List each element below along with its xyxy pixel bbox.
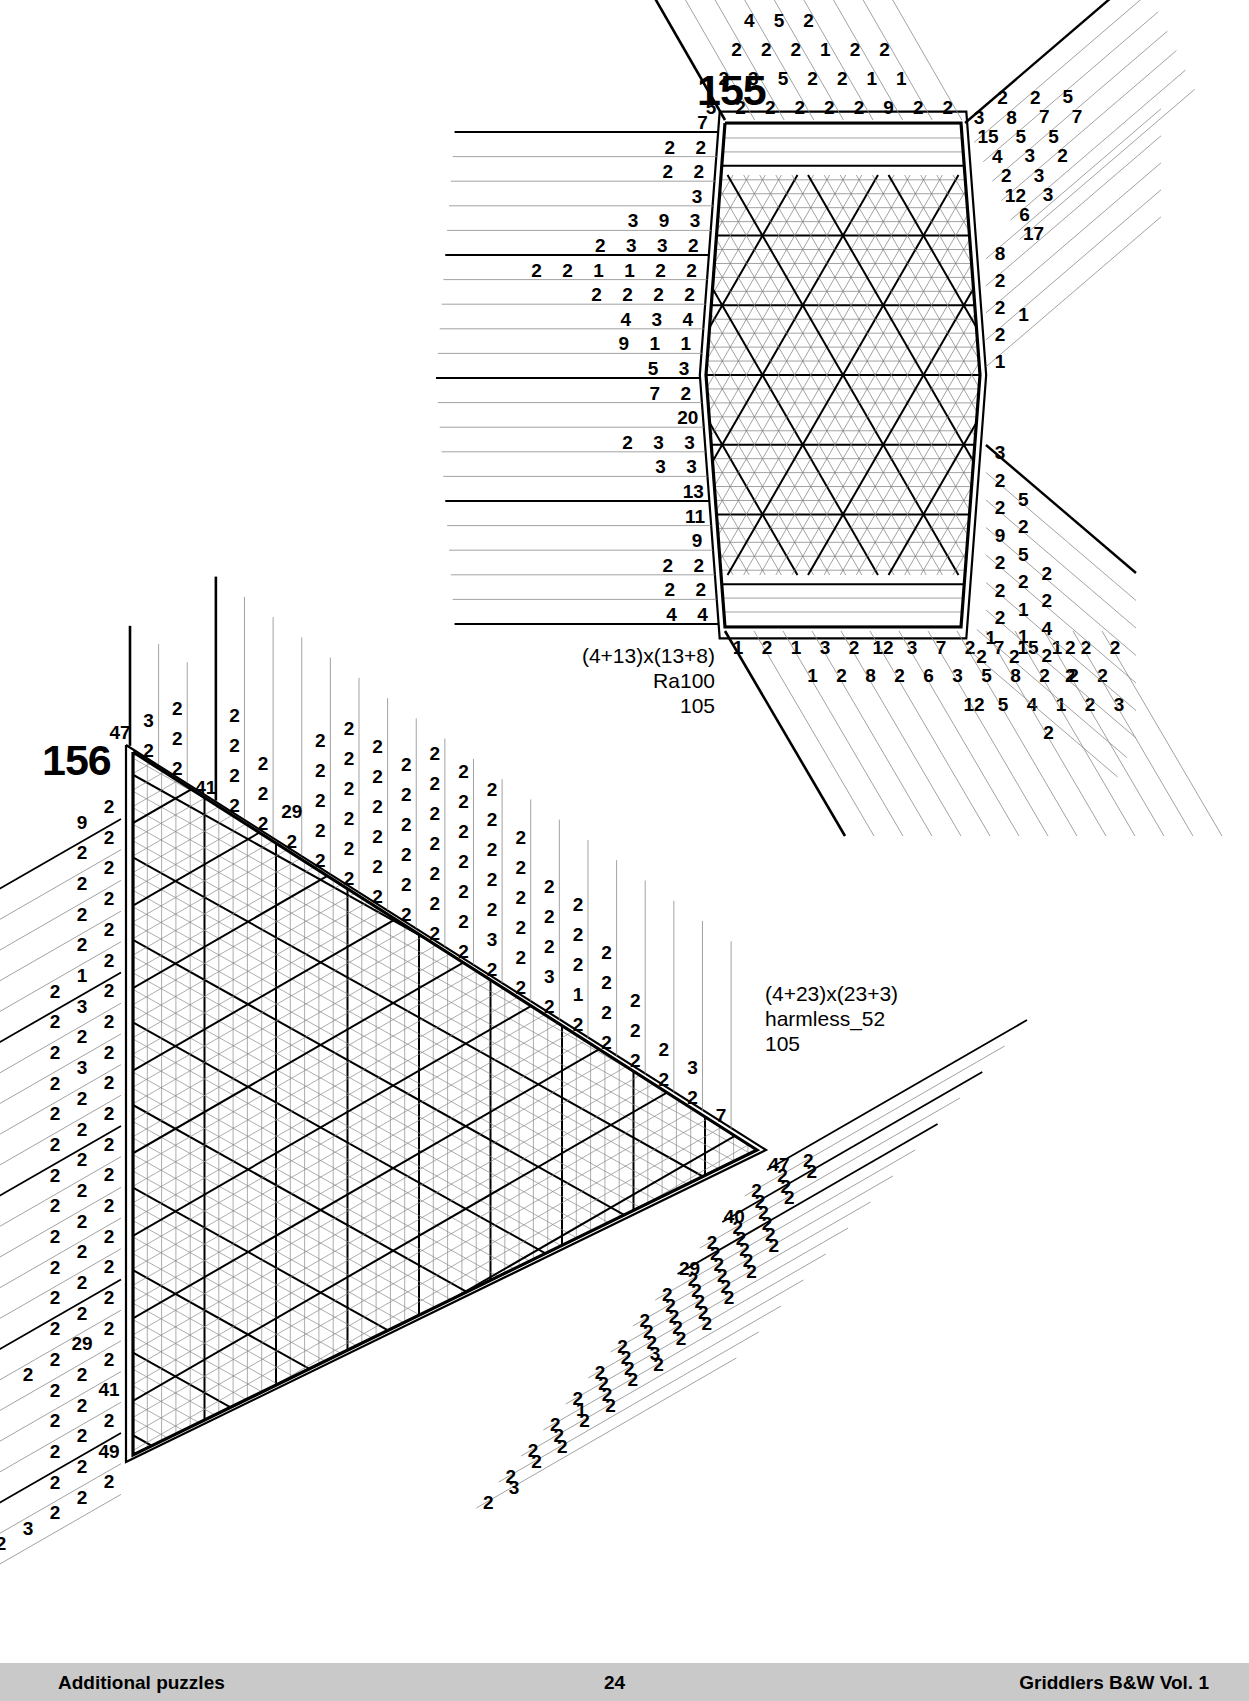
clue-number: 2	[544, 906, 555, 927]
clue-number: 2	[965, 637, 976, 658]
clue-number: 2	[622, 284, 633, 305]
clue-number: 2	[544, 936, 555, 957]
clue-number: 2	[344, 808, 355, 829]
puzzle-156-number: 156	[42, 736, 111, 785]
clue-number: 3	[626, 235, 637, 256]
footer-right: Griddlers B&W Vol. 1	[1019, 1672, 1209, 1694]
clue-number: 2	[803, 10, 814, 31]
clue-number: 2	[77, 1241, 88, 1262]
clue-number: 5	[1018, 489, 1029, 510]
clue-number: 2	[995, 470, 1006, 491]
clue-number: 2	[664, 137, 675, 158]
clue-number: 2	[1110, 637, 1121, 658]
clue-number: 4	[666, 604, 677, 625]
clue-number: 2	[531, 260, 542, 281]
clue-number: 1	[1018, 626, 1029, 647]
clue-number: 5	[998, 694, 1009, 715]
clue-number: 3	[628, 210, 639, 231]
clue-number: 3	[1025, 145, 1036, 166]
clue-number: 3	[995, 442, 1006, 463]
clue-number: 3	[1034, 165, 1045, 186]
clue-number: 2	[172, 698, 183, 719]
clue-number: 2	[23, 1364, 34, 1385]
clue-number: 5	[648, 358, 659, 379]
clue-number: 3	[952, 665, 963, 686]
clue-number: 2	[731, 39, 742, 60]
clue-number: 2	[430, 923, 441, 944]
clue-number: 2	[1030, 87, 1041, 108]
clue-number: 29	[281, 801, 302, 822]
clue-number: 3	[77, 996, 88, 1017]
clue-number: 2	[487, 959, 498, 980]
clue-number: 2	[997, 87, 1008, 108]
clue-number: 2	[1018, 571, 1029, 592]
clue-number: 2	[50, 1042, 61, 1063]
clue-number: 2	[229, 765, 240, 786]
clue-number: 2	[1042, 590, 1053, 611]
clue-number: 1	[995, 351, 1006, 372]
clue-number: 5	[1018, 544, 1029, 565]
clue-number: 12	[963, 694, 984, 715]
clue-number: 2	[483, 1492, 494, 1513]
clue-number: 4	[697, 604, 708, 625]
clue-number: 9	[883, 97, 894, 118]
clue-number: 2	[1042, 645, 1053, 666]
clue-number: 2	[579, 1410, 590, 1431]
clue-number: 2	[104, 857, 115, 878]
clue-number: 2	[487, 839, 498, 860]
clue-number: 2	[791, 39, 802, 60]
clue-number: 2	[630, 1050, 641, 1071]
clue-number: 2	[746, 1261, 757, 1282]
clue-number: 2	[487, 899, 498, 920]
clue-number: 2	[995, 497, 1006, 518]
clue-number: 2	[0, 1533, 6, 1554]
clue-number: 3	[679, 358, 690, 379]
clue-number: 2	[854, 97, 865, 118]
clue-number: 3	[651, 309, 662, 330]
clue-number: 1	[791, 637, 802, 658]
clue-number: 2	[1065, 637, 1076, 658]
clue-number: 2	[515, 887, 526, 908]
clue-number: 3	[23, 1518, 34, 1539]
clue-number: 2	[344, 778, 355, 799]
clue-number: 1	[593, 260, 604, 281]
clue-number: 3	[907, 637, 918, 658]
clue-number: 3	[544, 966, 555, 987]
clue-number: 2	[372, 796, 383, 817]
clue-number: 5	[774, 10, 785, 31]
clue-number: 2	[995, 297, 1006, 318]
clue-number: 2	[50, 981, 61, 1002]
clue-number: 2	[458, 911, 469, 932]
clue-number: 2	[686, 260, 697, 281]
clue-number: 6	[1019, 204, 1030, 225]
clue-number: 4	[992, 146, 1003, 167]
clue-number: 2	[544, 996, 555, 1017]
clue-number: 2	[344, 748, 355, 769]
clue-number: 5	[1015, 126, 1026, 147]
clue-number: 2	[663, 161, 674, 182]
clue-number: 2	[104, 1011, 115, 1032]
clue-number: 2	[172, 728, 183, 749]
clue-number: 3	[687, 1057, 698, 1078]
clue-number: 1	[1018, 304, 1029, 325]
puzzle-156-caption: (4+23)x(23+3) harmless_52 105	[765, 981, 898, 1056]
clue-number: 4	[620, 309, 631, 330]
clue-number: 2	[143, 740, 154, 761]
clue-number: 2	[761, 39, 772, 60]
clue-number: 2	[824, 97, 835, 118]
clue-number: 2	[372, 736, 383, 757]
clue-number: 2	[50, 1441, 61, 1462]
clue-number: 9	[692, 530, 703, 551]
clue-number: 1	[624, 260, 635, 281]
clue-number: 17	[1023, 223, 1044, 244]
clue-number: 2	[769, 1235, 780, 1256]
clue-number: 47	[109, 722, 130, 743]
clue-number: 1	[820, 39, 831, 60]
clue-number: 2	[104, 1195, 115, 1216]
clue-number: 2	[849, 637, 860, 658]
clue-number: 2	[458, 791, 469, 812]
clue-number: 4	[1042, 618, 1053, 639]
clue-number: 2	[344, 868, 355, 889]
clue-number: 2	[104, 1287, 115, 1308]
clue-number: 2	[659, 1069, 670, 1090]
